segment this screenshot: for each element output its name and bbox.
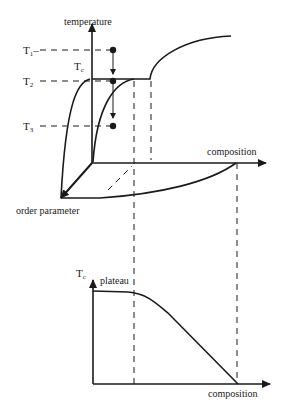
tc-vs-composition-curve (93, 291, 238, 384)
composition-axis-label: composition (207, 147, 256, 157)
tc-label: Tc (74, 61, 84, 74)
base-dashed-diagonal (108, 166, 132, 190)
temperature-axis-label: temperature (64, 17, 112, 27)
order-parameter-axis-label: order parameter (16, 206, 80, 216)
order-parameter-axis (61, 163, 92, 198)
t1-label: T1– (23, 45, 39, 58)
top-panel (40, 24, 266, 384)
state-dot-t3 (110, 123, 116, 129)
state-dot-t1 (110, 47, 116, 53)
phase-diagram-figure: temperature T1– T2 T3 Tc composition ord… (0, 0, 282, 417)
bottom-composition-axis-label: composition (208, 389, 257, 399)
plateau-label: plateau (100, 276, 129, 286)
bottom-panel (93, 280, 270, 384)
t3-label: T3 (23, 121, 33, 134)
state-dot-t2 (110, 78, 116, 84)
bottom-tc-axis-label: Tc (76, 268, 86, 281)
order-parameter-curve-back (93, 79, 134, 162)
t2-label: T2 (23, 76, 33, 89)
